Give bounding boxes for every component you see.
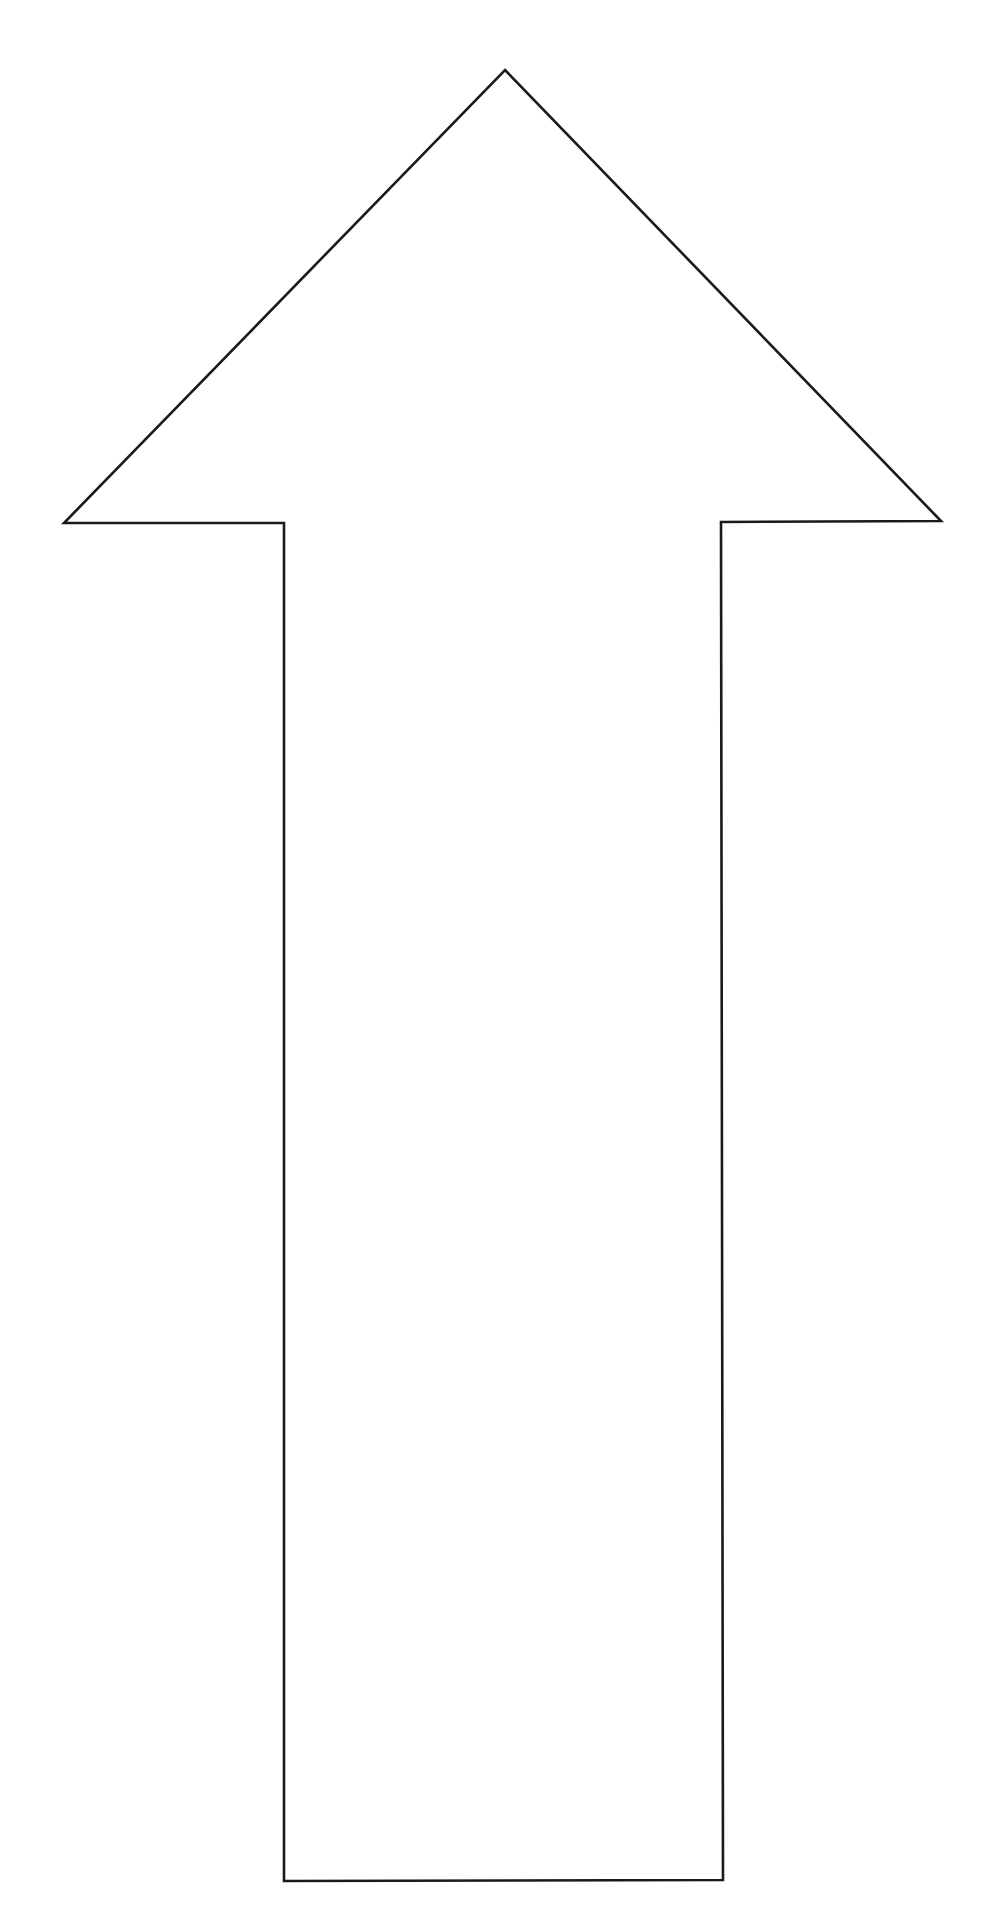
arrow-outline-shape (64, 70, 941, 1881)
diagram-canvas (0, 0, 996, 1932)
up-arrow-icon (0, 0, 996, 1932)
